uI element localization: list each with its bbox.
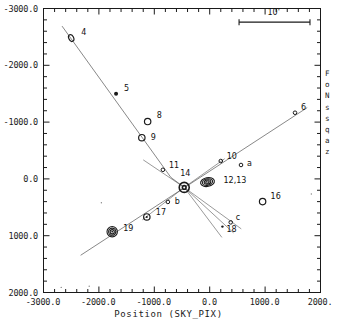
right-margin-char: a xyxy=(325,135,337,146)
marker-9 xyxy=(139,135,145,141)
marker-6 xyxy=(293,111,297,115)
marker-14 xyxy=(179,182,189,192)
marker-10 xyxy=(219,159,223,163)
point-label-8: 8 xyxy=(157,111,162,120)
point-label-5: 5 xyxy=(124,84,129,93)
point-label-6: 6 xyxy=(301,103,306,112)
ray-down-mid xyxy=(184,187,222,237)
right-margin-char: F xyxy=(325,68,337,79)
right-margin-char: s xyxy=(325,113,337,124)
point-label-19: 19 xyxy=(123,224,133,233)
marker-18 xyxy=(221,225,223,227)
sw-ne-streak xyxy=(81,108,308,256)
marker-19 xyxy=(107,227,117,237)
right-margin-char: q xyxy=(325,124,337,135)
right-margin-char: o xyxy=(325,79,337,90)
marker-5 xyxy=(114,92,118,96)
point-label-11: 11 xyxy=(169,161,179,170)
speckle-1 xyxy=(311,193,312,194)
point-label-14: 14 xyxy=(180,169,190,178)
marker-11 xyxy=(161,168,165,172)
marker-a xyxy=(239,163,243,167)
point-label-a: a xyxy=(247,159,252,168)
marker-16 xyxy=(259,198,265,204)
marker-b xyxy=(166,200,170,204)
nw-se-streak xyxy=(62,26,171,177)
point-label-18: 18 xyxy=(226,225,236,234)
right-margin-char: N xyxy=(325,90,337,101)
speckle-0 xyxy=(101,202,102,203)
point-label-b: b xyxy=(175,197,180,206)
speckle-2 xyxy=(61,287,62,288)
point-label-16: 16 xyxy=(271,192,281,201)
marker-8 xyxy=(144,118,150,124)
point-label-9: 9 xyxy=(151,133,156,142)
plot-frame xyxy=(44,9,321,293)
point-label-10: 10 xyxy=(227,152,237,161)
point-label-12-13: 12,13 xyxy=(223,176,246,185)
marker-12-13 xyxy=(200,176,216,188)
point-label-4: 4 xyxy=(81,28,86,37)
x-axis-title: Position (SKY_PIX) xyxy=(0,309,337,319)
marker-4 xyxy=(68,34,75,43)
scalebar-label: 10' xyxy=(268,8,280,17)
marker-17 xyxy=(144,214,150,220)
speckle-3 xyxy=(89,286,90,287)
point-label-c: c xyxy=(236,213,240,222)
plot-page: -3000.0-2000.0-1000.00.01000.02000.0 -30… xyxy=(0,0,337,331)
right-margin-text: FoNssqaz xyxy=(325,68,337,158)
right-margin-char: s xyxy=(325,102,337,113)
right-margin-char: z xyxy=(325,146,337,157)
point-label-17: 17 xyxy=(156,208,166,217)
